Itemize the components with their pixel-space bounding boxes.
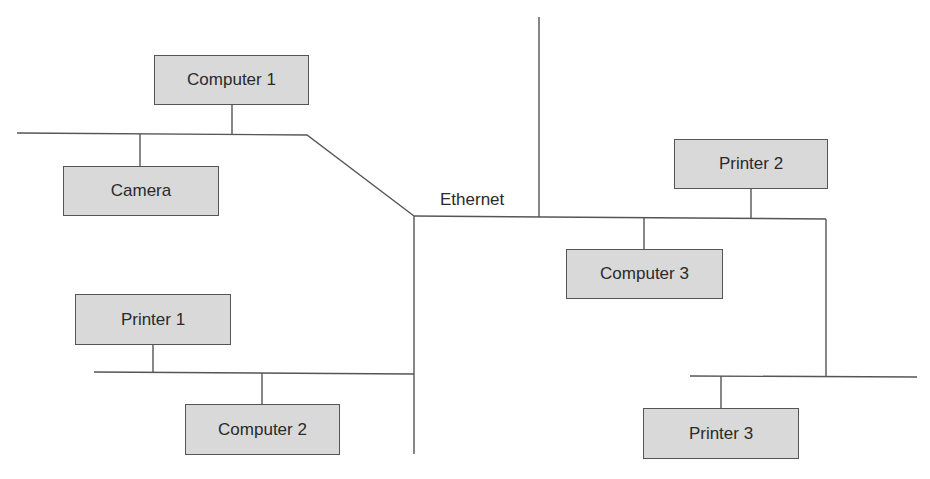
node-printer-2: Printer 2 bbox=[674, 139, 828, 189]
node-printer-1: Printer 1 bbox=[75, 294, 231, 345]
node-computer-3: Computer 3 bbox=[566, 249, 723, 299]
ethernet-backbone bbox=[414, 216, 826, 219]
segment-bottom-right bbox=[690, 376, 917, 377]
ethernet-label: Ethernet bbox=[440, 190, 504, 210]
segment-bottom-left bbox=[94, 372, 414, 374]
node-computer-2: Computer 2 bbox=[185, 404, 340, 455]
node-computer-1: Computer 1 bbox=[154, 55, 309, 105]
node-printer-3: Printer 3 bbox=[643, 408, 799, 459]
node-camera: Camera bbox=[63, 166, 219, 216]
